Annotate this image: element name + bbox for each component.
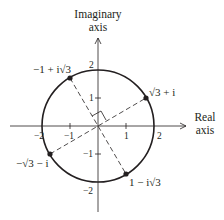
point-minus1-plus-isqrt3 <box>67 75 72 80</box>
y-tick-label: 1 <box>89 93 94 103</box>
imaginary-axis-title: axis <box>89 21 108 33</box>
point-label: −√3 − i <box>16 157 49 169</box>
y-tick-label: 2 <box>89 60 94 70</box>
real-axis-title: axis <box>196 124 215 136</box>
right-angle-marker-icon <box>92 111 106 120</box>
y-tick-label: −1 <box>83 149 93 159</box>
y-tick-label: −2 <box>83 186 93 196</box>
x-tick-label: 2 <box>157 131 162 141</box>
point-label: −1 + i√3 <box>33 63 72 75</box>
real-axis-title: Real <box>194 111 215 123</box>
point-label: 1 − i√3 <box>129 176 161 188</box>
x-tick-label: 1 <box>124 131 129 141</box>
point-1-minus-isqrt3 <box>123 171 128 176</box>
imaginary-axis-title: Imaginary <box>74 8 122 21</box>
point-sqrt3-plus-i <box>143 95 148 100</box>
point-label: √3 + i <box>149 86 175 98</box>
point-minus-sqrt3-minus-i <box>47 151 52 156</box>
x-tick-label: −1 <box>64 131 74 141</box>
complex-plane-diagram: −2 −1 1 2 2 1 −1 −2 √3 + i −1 + i√3 −√3 … <box>0 0 224 220</box>
